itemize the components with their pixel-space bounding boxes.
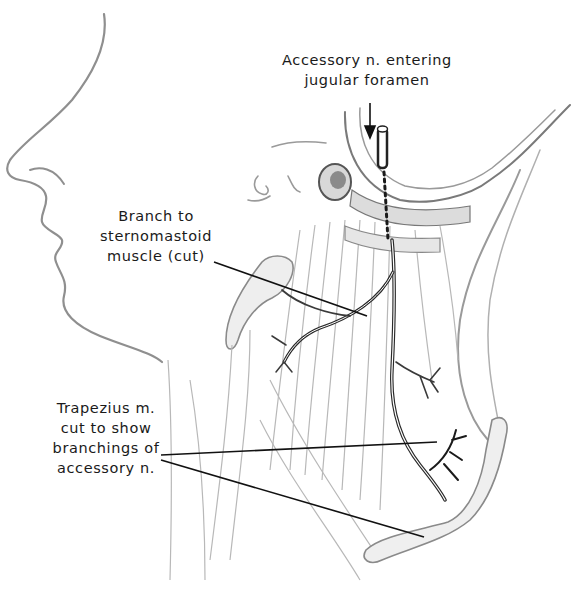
leader-line-trapezius-lower bbox=[161, 460, 424, 537]
label-line: cut to show bbox=[36, 418, 176, 438]
label-line: Trapezius m. bbox=[36, 398, 176, 418]
mastoid-process bbox=[319, 164, 351, 200]
trapezius-stump bbox=[364, 418, 507, 563]
label-line: Branch to bbox=[96, 206, 216, 226]
label-line: jugular foramen bbox=[262, 70, 472, 90]
face-profile bbox=[7, 14, 162, 362]
nerve-stub bbox=[378, 128, 387, 168]
label-branch-sternomastoid: Branch to sternomastoid muscle (cut) bbox=[96, 206, 216, 266]
label-line: sternomastoid bbox=[96, 226, 216, 246]
ear-sketch bbox=[248, 142, 326, 201]
leader-line-trapezius-upper bbox=[161, 442, 437, 455]
label-line: accessory n. bbox=[36, 458, 176, 478]
neck-muscles bbox=[168, 220, 458, 580]
label-line: branchings of bbox=[36, 438, 176, 458]
label-trapezius: Trapezius m. cut to show branchings of a… bbox=[36, 398, 176, 478]
arrow-head-icon bbox=[365, 126, 375, 138]
label-line: muscle (cut) bbox=[96, 246, 216, 266]
illustration bbox=[0, 0, 579, 600]
jugular-band bbox=[345, 190, 470, 253]
anatomy-figure: Accessory n. entering jugular foramen Br… bbox=[0, 0, 579, 600]
label-accessory-entering: Accessory n. entering jugular foramen bbox=[262, 50, 472, 90]
label-line: Accessory n. entering bbox=[262, 50, 472, 70]
